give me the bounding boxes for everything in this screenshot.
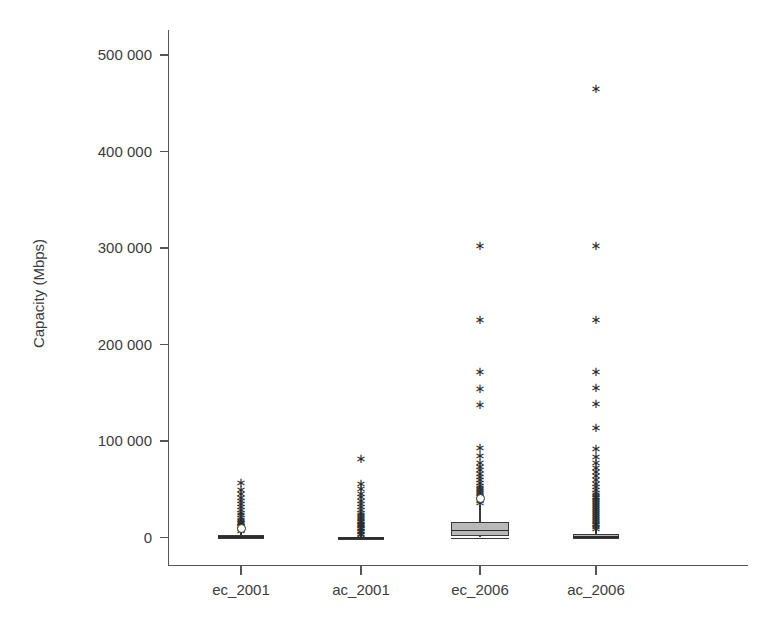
x-tick-mark — [595, 566, 596, 575]
outlier-marker: ∗ — [473, 398, 487, 411]
outlier-circle-marker — [476, 494, 485, 503]
x-axis-line — [168, 565, 748, 566]
whisker-cap-lower — [451, 538, 509, 540]
x-tick-label-ac_2006: ac_2006 — [526, 581, 666, 598]
x-tick-mark — [360, 566, 361, 575]
y-tick-mark — [160, 440, 169, 441]
outlier-marker: ∗ — [589, 381, 603, 394]
y-tick-label: 200 000 — [32, 336, 152, 353]
y-tick-mark — [160, 54, 169, 55]
outlier-marker: ∗ — [473, 365, 487, 378]
outlier-marker: ∗ — [473, 441, 487, 454]
outlier-marker: ∗ — [473, 313, 487, 326]
y-tick-mark — [160, 537, 169, 538]
outlier-marker: ∗ — [589, 82, 603, 95]
outlier-marker: ∗ — [473, 239, 487, 252]
y-tick-mark — [160, 151, 169, 152]
y-tick-label: 0 — [32, 529, 152, 546]
outlier-marker: ∗ — [473, 382, 487, 395]
outlier-marker: ∗ — [589, 313, 603, 326]
outlier-marker: ∗ — [589, 397, 603, 410]
outlier-marker: ∗ — [589, 421, 603, 434]
y-tick-label: 500 000 — [32, 46, 152, 63]
y-tick-mark — [160, 247, 169, 248]
x-tick-mark — [479, 566, 480, 575]
outlier-marker: ∗ — [589, 365, 603, 378]
outlier-marker: ∗ — [589, 442, 603, 455]
x-tick-label-ec_2001: ec_2001 — [171, 581, 311, 598]
y-axis-line — [168, 30, 169, 566]
y-axis-title: Capacity (Mbps) — [30, 194, 47, 394]
y-tick-label: 100 000 — [32, 432, 152, 449]
outlier-circle-marker — [237, 524, 246, 533]
median-line — [573, 536, 619, 538]
median-line — [451, 530, 509, 532]
x-tick-mark — [240, 566, 241, 575]
y-tick-label: 300 000 — [32, 239, 152, 256]
boxplot-chart: Capacity (Mbps) 0100 000200 000300 00040… — [0, 0, 769, 631]
outlier-marker: ∗ — [234, 476, 248, 489]
y-tick-mark — [160, 344, 169, 345]
outlier-marker: ∗ — [354, 477, 368, 490]
whisker-cap-lower — [573, 538, 619, 540]
outlier-marker: ∗ — [354, 452, 368, 465]
outlier-marker: ∗ — [589, 239, 603, 252]
y-tick-label: 400 000 — [32, 143, 152, 160]
